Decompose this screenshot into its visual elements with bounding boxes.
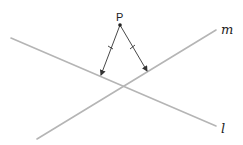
segment-p-to-l <box>101 25 120 75</box>
point-p-label: P <box>116 11 123 23</box>
line-m-label: m <box>221 22 233 37</box>
geometry-diagram: P m l <box>0 0 243 145</box>
line-l <box>11 38 216 126</box>
point-p <box>118 23 122 27</box>
segment-p-to-m <box>120 25 147 71</box>
line-m <box>37 30 216 139</box>
line-l-label: l <box>221 121 225 136</box>
